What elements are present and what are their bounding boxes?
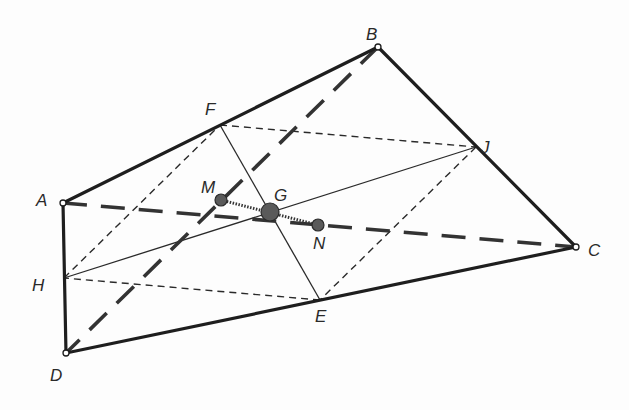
segment-EH <box>64 278 320 300</box>
point-D-marker[interactable] <box>63 350 69 356</box>
point-G-marker[interactable] <box>261 203 279 221</box>
quadrilateral-diagram: A B C D E F G H J M N <box>0 0 629 410</box>
segment-FJ <box>220 125 476 147</box>
label-H: H <box>32 276 45 295</box>
label-E: E <box>315 307 327 326</box>
point-M-marker[interactable] <box>215 194 227 206</box>
side-DA <box>63 203 66 353</box>
point-B-marker[interactable] <box>375 44 381 50</box>
label-C: C <box>588 241 601 260</box>
segment-HF <box>64 125 220 278</box>
label-N: N <box>313 234 326 253</box>
label-J: J <box>480 138 490 157</box>
label-B: B <box>366 25 377 44</box>
label-A: A <box>35 191 47 210</box>
label-G: G <box>274 186 287 205</box>
label-F: F <box>205 100 217 119</box>
point-A-marker[interactable] <box>60 200 66 206</box>
point-N-marker[interactable] <box>312 219 324 231</box>
side-AB <box>63 47 378 203</box>
segment-JE <box>320 147 476 300</box>
label-D: D <box>50 366 62 385</box>
side-CD <box>66 247 576 353</box>
side-BC <box>378 47 576 247</box>
label-M: M <box>201 178 216 197</box>
point-C-marker[interactable] <box>573 244 579 250</box>
